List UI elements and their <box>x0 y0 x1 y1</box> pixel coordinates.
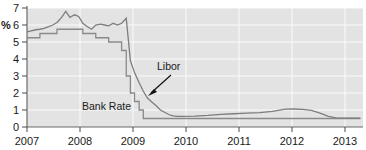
y-tick-2: 2 <box>13 87 19 99</box>
y-tick-3: 3 <box>13 70 19 82</box>
y-tick-4: 4 <box>13 53 19 65</box>
x-tick-2007: 2007 <box>15 135 39 147</box>
y-tick-7: 7 <box>13 2 19 14</box>
bank-rate-label: Bank Rate <box>82 100 131 112</box>
x-tick-2009: 2009 <box>121 135 145 147</box>
interest-rate-chart: 7 6 5 4 3 2 1 0 % 2007 2008 2009 2010 20… <box>0 0 366 150</box>
y-tick-1: 1 <box>13 104 19 116</box>
x-tick-2011: 2011 <box>227 135 251 147</box>
bank-rate-annotation: Bank Rate <box>82 100 131 112</box>
chart-svg: 7 6 5 4 3 2 1 0 % 2007 2008 2009 2010 20… <box>0 0 366 150</box>
y-tick-6: 6 <box>13 19 19 31</box>
x-tick-2012: 2012 <box>280 135 304 147</box>
x-tick-2013: 2013 <box>333 135 357 147</box>
y-axis-unit-label: % <box>1 19 11 31</box>
plot-area-background <box>27 8 363 127</box>
y-tick-5: 5 <box>13 36 19 48</box>
x-tick-2008: 2008 <box>68 135 92 147</box>
libor-label: Libor <box>157 60 181 72</box>
x-tick-2010: 2010 <box>174 135 198 147</box>
y-tick-0: 0 <box>13 121 19 133</box>
